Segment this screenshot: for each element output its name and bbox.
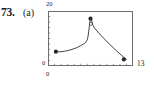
peak-open-point [89,22,92,25]
y-axis-zero-tick-label: 0 [42,60,45,67]
x-axis-zero-tick-label: 0 [46,71,49,78]
x-axis-ticks [55,64,127,66]
plot-canvas [48,11,133,66]
exercise-part-label: (a) [23,8,34,18]
y-axis-max-tick-label: 20 [46,1,53,8]
data-point-markers [54,17,126,62]
left-data-point [54,50,58,54]
y-axis-ticks [48,17,50,61]
plot-area [48,11,133,66]
exercise-number: 73. [1,7,15,19]
peak-data-point [88,17,92,21]
figure-73a: 73. (a) 20 0 0 13 [0,0,154,86]
x-axis-max-tick-label: 13 [137,60,145,68]
right-data-point [122,57,126,61]
